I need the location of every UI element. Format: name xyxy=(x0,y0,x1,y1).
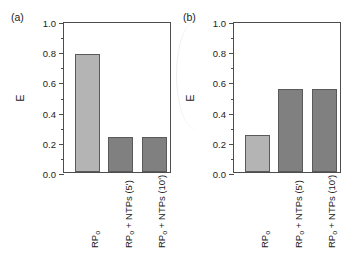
y-axis-minor-tick xyxy=(61,159,64,160)
x-axis-tick-label: RPo xyxy=(90,231,100,248)
y-axis-minor-tick xyxy=(231,129,234,130)
y-axis-tick-label: 0.8 xyxy=(43,48,56,59)
panel-b-plot-inner: 0.00.20.40.60.81.0 xyxy=(234,23,340,172)
panel-a-plot-inner: 0.00.20.40.60.81.0 xyxy=(64,23,170,172)
bar xyxy=(278,89,303,172)
y-axis-major-tick xyxy=(59,53,64,54)
panel-a-label: (a) xyxy=(11,11,24,23)
x-axis-tick-label: RPo + NTPs (10') xyxy=(157,175,167,248)
bar xyxy=(312,89,337,172)
y-axis-major-tick xyxy=(229,174,234,175)
y-axis-minor-tick xyxy=(231,38,234,39)
y-axis-minor-tick xyxy=(231,159,234,160)
panel-b-y-axis-label: E xyxy=(184,94,196,101)
bar xyxy=(245,135,270,172)
y-axis-minor-tick xyxy=(61,68,64,69)
y-axis-tick-label: 0.6 xyxy=(43,78,56,89)
y-axis-major-tick xyxy=(59,83,64,84)
bar xyxy=(108,137,133,172)
panel-b-plot-area: 0.00.20.40.60.81.0 xyxy=(233,22,341,173)
y-axis-major-tick xyxy=(59,174,64,175)
y-axis-major-tick xyxy=(229,83,234,84)
y-axis-minor-tick xyxy=(61,129,64,130)
y-axis-major-tick xyxy=(229,114,234,115)
panel-a: (a) E 0.00.20.40.60.81.0 RPoRPo + NTPs (… xyxy=(0,0,174,256)
y-axis-tick-label: 1.0 xyxy=(213,18,226,29)
figure-canvas: (a) E 0.00.20.40.60.81.0 RPoRPo + NTPs (… xyxy=(0,0,349,256)
y-axis-major-tick xyxy=(229,23,234,24)
y-axis-tick-label: 0.4 xyxy=(213,108,226,119)
x-axis-tick-label: RPo + NTPs (10') xyxy=(327,175,337,248)
x-axis-tick-label: RPo xyxy=(260,231,270,248)
y-axis-minor-tick xyxy=(231,99,234,100)
y-axis-major-tick xyxy=(59,114,64,115)
y-axis-tick-label: 1.0 xyxy=(43,18,56,29)
x-axis-tick-label: RPo + NTPs (5') xyxy=(124,180,134,248)
panel-a-plot-area: 0.00.20.40.60.81.0 xyxy=(63,22,171,173)
y-axis-major-tick xyxy=(59,23,64,24)
panel-b-label: (b) xyxy=(183,11,196,23)
y-axis-tick-label: 0.8 xyxy=(213,48,226,59)
bar xyxy=(142,137,167,172)
panel-a-y-axis-label: E xyxy=(14,94,26,101)
y-axis-major-tick xyxy=(229,144,234,145)
y-axis-major-tick xyxy=(229,53,234,54)
x-axis-tick-label: RPo + NTPs (5') xyxy=(294,180,304,248)
y-axis-minor-tick xyxy=(231,68,234,69)
bar xyxy=(75,54,100,172)
y-axis-major-tick xyxy=(59,144,64,145)
y-axis-tick-label: 0.4 xyxy=(43,108,56,119)
y-axis-tick-label: 0.2 xyxy=(43,138,56,149)
y-axis-minor-tick xyxy=(61,38,64,39)
y-axis-tick-label: 0.2 xyxy=(213,138,226,149)
y-axis-tick-label: 0.6 xyxy=(213,78,226,89)
y-axis-tick-label: 0.0 xyxy=(213,169,226,180)
y-axis-tick-label: 0.0 xyxy=(43,169,56,180)
panel-b: (b) E 0.00.20.40.60.81.0 RPoRPo + NTPs (… xyxy=(175,0,349,256)
y-axis-minor-tick xyxy=(61,99,64,100)
